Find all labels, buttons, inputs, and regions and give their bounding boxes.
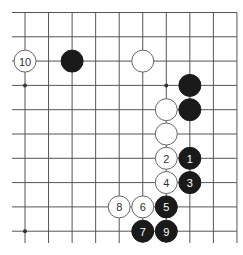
white-stone-disc (132, 50, 154, 72)
white-stone: 8 (108, 196, 130, 218)
move-number-label: 9 (163, 226, 169, 238)
black-stone: 9 (155, 220, 177, 242)
black-stone-disc (179, 74, 201, 96)
black-stone-disc (61, 50, 83, 72)
move-number-label: 5 (163, 201, 169, 213)
white-stone: 2 (155, 147, 177, 169)
white-stone: 10 (14, 50, 36, 72)
stones: 10214386579 (14, 50, 201, 242)
black-stone (179, 99, 201, 121)
white-stone: 4 (155, 172, 177, 194)
black-stone (61, 50, 83, 72)
black-stone-disc (179, 99, 201, 121)
move-number-label: 6 (140, 201, 146, 213)
white-stone (155, 99, 177, 121)
move-number-label: 3 (187, 177, 193, 189)
black-stone: 7 (132, 220, 154, 242)
star-point (23, 83, 27, 87)
white-stone-disc (155, 123, 177, 145)
white-stone (132, 50, 154, 72)
move-number-label: 1 (187, 153, 193, 165)
black-stone: 1 (179, 147, 201, 169)
black-stone: 5 (155, 196, 177, 218)
go-board: 10214386579 (0, 0, 243, 255)
star-point (164, 83, 168, 87)
black-stone: 3 (179, 172, 201, 194)
star-point (23, 229, 27, 233)
move-number-label: 4 (163, 177, 169, 189)
move-number-label: 8 (116, 201, 122, 213)
black-stone (179, 74, 201, 96)
white-stone-disc (155, 99, 177, 121)
move-number-label: 10 (19, 56, 31, 68)
white-stone: 6 (132, 196, 154, 218)
white-stone (155, 123, 177, 145)
move-number-label: 7 (140, 226, 146, 238)
move-number-label: 2 (163, 153, 169, 165)
